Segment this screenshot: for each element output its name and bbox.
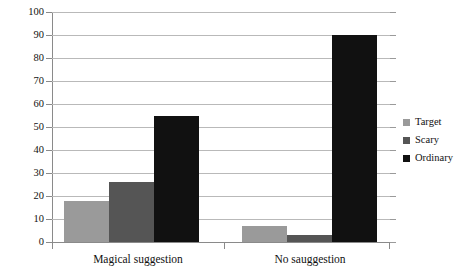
x-axis-tick-mark [52,243,53,249]
bar-chart: 1009080706050403020100 Magical suggestio… [0,0,468,277]
y-axis-tick-mark-right [390,104,396,105]
y-axis-tick-mark-right [390,150,396,151]
x-axis-tick-mark [389,243,390,249]
y-axis-tick-label: 20 [14,191,44,201]
x-axis-line [52,242,390,243]
y-axis-tick-mark-right [390,173,396,174]
legend-label: Target [415,116,441,128]
legend-swatch-icon [403,119,410,126]
y-axis-tick-mark-right [390,12,396,13]
legend-item: Target [403,113,468,131]
y-axis-tick-mark-right [390,219,396,220]
legend-label: Scary [415,134,439,146]
y-axis-tick-label: 40 [14,145,44,155]
bar [242,226,287,242]
bar [64,201,109,242]
x-axis-tick-label: No sauggestion [230,252,390,266]
x-axis-tick-mark [224,243,225,249]
legend-swatch-icon [403,137,410,144]
y-axis-tick-mark-right [390,242,396,243]
y-axis-tick-label: 90 [14,30,44,40]
y-axis-tick-label: 30 [14,168,44,178]
y-axis-tick-label: 10 [14,214,44,224]
legend-item: Scary [403,131,468,149]
plot-area [52,12,390,242]
x-axis-tick-label: Magical suggestion [58,252,218,266]
y-axis-tick-mark-right [390,196,396,197]
y-axis-tick-mark-right [390,35,396,36]
gridline [52,12,390,13]
legend-swatch-icon [403,155,410,162]
legend-label: Ordinary [415,152,453,164]
bar [287,235,332,242]
y-axis-tick-label: 100 [14,7,44,17]
y-axis-tick-mark-right [390,127,396,128]
legend: TargetScaryOrdinary [403,113,468,167]
y-axis-tick-labels: 1009080706050403020100 [14,0,44,277]
y-axis-tick-mark-right [390,58,396,59]
y-axis-tick-label: 70 [14,76,44,86]
y-axis-tick-label: 60 [14,99,44,109]
y-axis-tick-label: 80 [14,53,44,63]
bar [154,116,199,243]
y-axis-tick-label: 50 [14,122,44,132]
bar [332,35,377,242]
y-axis-tick-label: 0 [14,237,44,247]
y-axis-tick-mark-right [390,81,396,82]
legend-item: Ordinary [403,149,468,167]
bar [109,182,154,242]
